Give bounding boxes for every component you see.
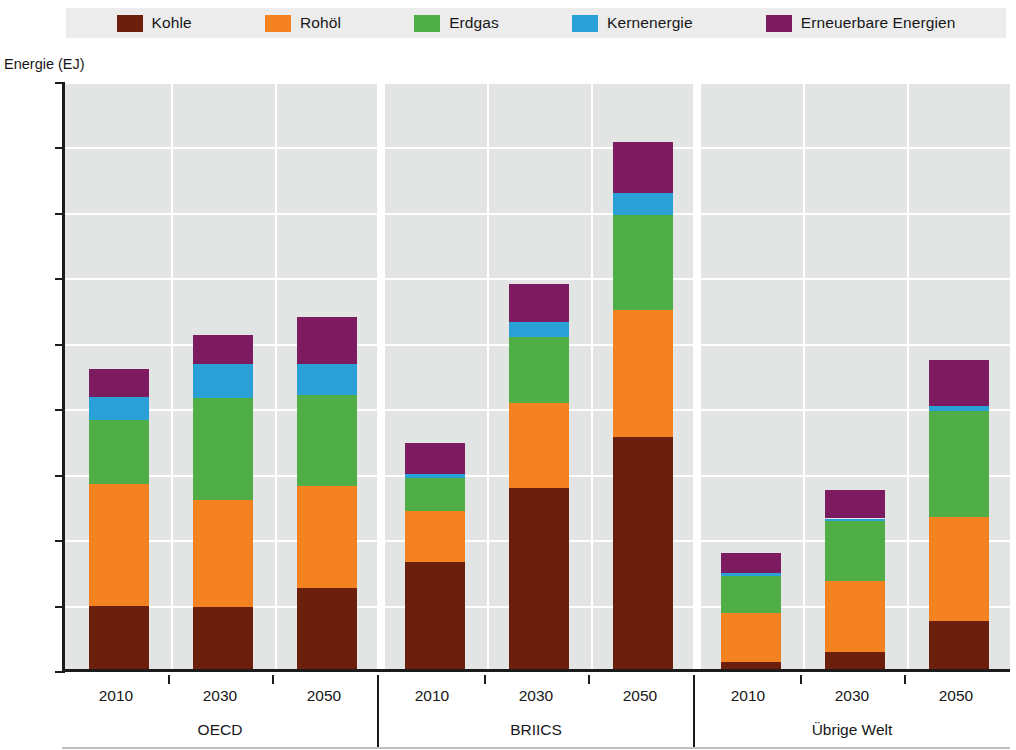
bar-segment-kohle — [613, 437, 673, 669]
bar-segment-kohle — [405, 562, 465, 669]
bar-segment-kernenergie — [721, 573, 781, 576]
legend-swatch-icon — [117, 15, 143, 32]
bar-segment-erneuerbare-energien — [721, 553, 781, 574]
y-axis-title: Energie (EJ) — [4, 56, 85, 72]
bar--brige-welt-2010[interactable] — [721, 553, 781, 669]
legend-item-erdgas[interactable]: Erdgas — [414, 14, 499, 32]
legend-item-kernenergie[interactable]: Kernenergie — [572, 14, 693, 32]
plot-inner — [65, 83, 1010, 669]
x-axis-year-label: 2050 — [600, 687, 680, 705]
bar--brige-welt-2030[interactable] — [825, 490, 885, 669]
bar-segment-erdgas — [613, 215, 673, 311]
bar-segment-erneuerbare-energien — [193, 335, 253, 364]
bar-briics-2010[interactable] — [405, 443, 465, 669]
y-axis-tick — [55, 409, 65, 411]
x-axis-group-separator — [693, 675, 695, 747]
y-axis-tick — [55, 147, 65, 149]
y-axis-tick — [55, 475, 65, 477]
x-axis-tick — [272, 675, 274, 684]
plot-area: 050100150200250300350400450 — [62, 83, 1010, 672]
bar-segment-roh-l — [929, 517, 989, 620]
y-axis-tick — [55, 344, 65, 346]
y-gridline — [65, 147, 1010, 149]
y-axis-tick — [55, 82, 65, 84]
chart-legend: KohleRohölErdgasKernenergieErneuerbare E… — [66, 8, 1006, 38]
legend-swatch-icon — [572, 15, 598, 32]
bar-segment-erdgas — [193, 398, 253, 500]
bar-segment-erdgas — [825, 521, 885, 581]
bar-segment-kernenergie — [89, 397, 149, 421]
bar-segment-roh-l — [825, 581, 885, 652]
legend-item-kohle[interactable]: Kohle — [117, 14, 192, 32]
x-axis-year-label: 2030 — [812, 687, 892, 705]
y-gridline — [65, 82, 1010, 84]
x-gridline — [591, 83, 593, 669]
bar-segment-kernenergie — [405, 474, 465, 478]
legend-item-roh-l[interactable]: Rohöl — [265, 14, 341, 32]
bar-briics-2050[interactable] — [613, 142, 673, 669]
bar-segment-kernenergie — [929, 406, 989, 411]
bar-segment-erneuerbare-energien — [929, 360, 989, 406]
bar-segment-erneuerbare-energien — [297, 317, 357, 364]
bar-oecd-2050[interactable] — [297, 317, 357, 669]
group-separator-gap — [693, 83, 701, 669]
bar-segment-erdgas — [929, 411, 989, 517]
y-axis-tick — [55, 606, 65, 608]
chart-figure: KohleRohölErdgasKernenergieErneuerbare E… — [0, 0, 1016, 750]
legend-item-label: Kohle — [152, 14, 192, 32]
bar-segment-roh-l — [613, 310, 673, 437]
bar-segment-roh-l — [721, 613, 781, 663]
bar-segment-roh-l — [297, 486, 357, 588]
bar-segment-kohle — [929, 621, 989, 669]
bar-segment-erdgas — [509, 337, 569, 404]
bar-segment-kernenergie — [613, 193, 673, 215]
bar-segment-roh-l — [509, 403, 569, 488]
bar-segment-roh-l — [193, 500, 253, 607]
y-axis-tick — [55, 278, 65, 280]
x-gridline — [907, 83, 909, 669]
legend-item-label: Erdgas — [449, 14, 499, 32]
x-axis-year-label: 2030 — [496, 687, 576, 705]
legend-swatch-icon — [766, 15, 792, 32]
x-axis-tick — [168, 675, 170, 684]
bar-segment-kernenergie — [825, 519, 885, 522]
x-axis-year-label: 2030 — [180, 687, 260, 705]
bar-segment-kohle — [89, 606, 149, 669]
bar-segment-erneuerbare-energien — [509, 284, 569, 322]
bar-segment-kohle — [193, 607, 253, 669]
bar-segment-erdgas — [405, 478, 465, 511]
group-separator-gap — [377, 83, 385, 669]
bar-briics-2030[interactable] — [509, 284, 569, 669]
x-axis-tick — [484, 675, 486, 684]
x-axis-tick — [588, 675, 590, 684]
bar-segment-erdgas — [89, 420, 149, 484]
x-axis-tick — [800, 675, 802, 684]
legend-item-erneuerbare-energien[interactable]: Erneuerbare Energien — [766, 14, 956, 32]
bar--brige-welt-2050[interactable] — [929, 360, 989, 669]
bar-segment-erdgas — [721, 576, 781, 613]
y-gridline — [65, 213, 1010, 215]
bar-oecd-2030[interactable] — [193, 335, 253, 669]
bar-segment-kernenergie — [297, 364, 357, 395]
legend-item-label: Erneuerbare Energien — [801, 14, 956, 32]
bar-segment-kernenergie — [509, 322, 569, 336]
bar-segment-kohle — [721, 662, 781, 669]
x-gridline — [275, 83, 277, 669]
legend-item-label: Kernenergie — [607, 14, 693, 32]
x-axis-year-label: 2010 — [708, 687, 788, 705]
bar-oecd-2010[interactable] — [89, 369, 149, 669]
bar-segment-erneuerbare-energien — [613, 142, 673, 193]
y-axis-tick — [55, 671, 65, 673]
x-gridline — [171, 83, 173, 669]
legend-swatch-icon — [414, 15, 440, 32]
bar-segment-kohle — [825, 652, 885, 669]
x-axis-year-label: 2050 — [916, 687, 996, 705]
x-axis-group-label: OECD — [110, 721, 330, 739]
x-axis-group-separator — [377, 675, 379, 747]
x-axis-year-label: 2010 — [76, 687, 156, 705]
bar-segment-roh-l — [405, 511, 465, 562]
legend-swatch-icon — [265, 15, 291, 32]
x-gridline — [803, 83, 805, 669]
bar-segment-kernenergie — [193, 364, 253, 398]
x-axis-tick — [904, 675, 906, 684]
